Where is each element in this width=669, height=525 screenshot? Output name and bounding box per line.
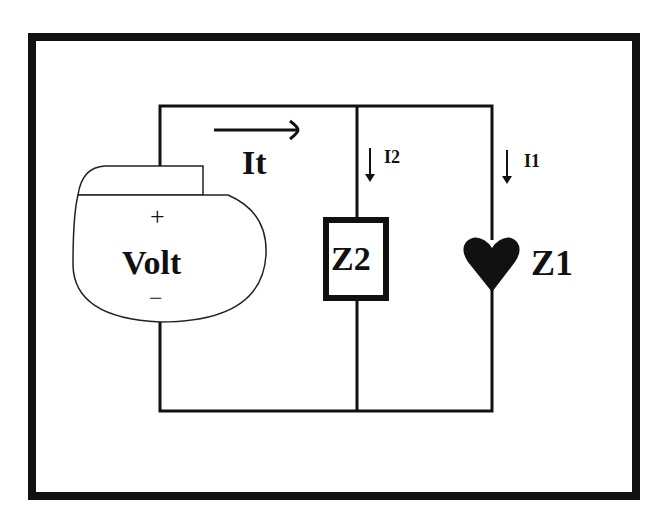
arrow-right-icon bbox=[214, 121, 298, 139]
i1-label: I1 bbox=[524, 152, 540, 170]
voltage-source-label: Volt bbox=[122, 246, 181, 280]
heart-icon bbox=[463, 237, 519, 292]
i2-label: I2 bbox=[384, 148, 400, 166]
negative-terminal-label: − bbox=[149, 286, 163, 310]
total-current-label: It bbox=[242, 146, 267, 180]
z1-label: Z1 bbox=[531, 245, 573, 281]
arrow-down-icon bbox=[365, 148, 375, 182]
arrow-down-icon bbox=[502, 150, 512, 184]
z2-label: Z2 bbox=[331, 242, 371, 276]
positive-terminal-label: + bbox=[150, 204, 165, 230]
